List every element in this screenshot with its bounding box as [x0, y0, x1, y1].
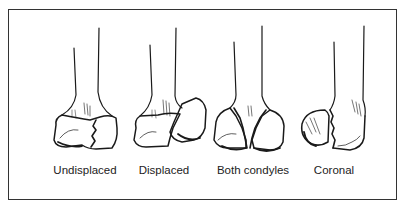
label-coronal: Coronal	[314, 164, 354, 176]
femur-displaced-illustration	[134, 28, 206, 147]
label-both-condyles: Both condyles	[217, 164, 289, 176]
label-undisplaced: Undisplaced	[53, 164, 116, 176]
femur-coronal-illustration	[302, 26, 366, 150]
femur-undisplaced-illustration	[54, 28, 117, 149]
label-displaced: Displaced	[139, 164, 190, 176]
femur-both-condyles-illustration	[214, 26, 284, 151]
